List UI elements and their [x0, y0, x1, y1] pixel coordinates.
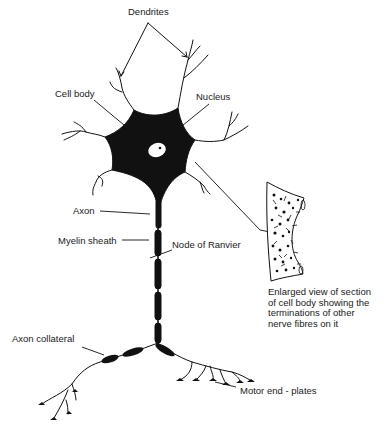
label-nucleus: Nucleus [196, 92, 230, 102]
motor-end-plates [38, 378, 255, 420]
dendrites-pointer [119, 23, 187, 76]
label-axon: Axon [73, 206, 95, 216]
inset-enlarged-view [267, 182, 305, 281]
dendrite-right [195, 112, 248, 142]
dendrite-lower-right [185, 172, 210, 194]
dendrite-left [62, 122, 105, 140]
neuron-diagram [0, 0, 387, 426]
axon [155, 200, 161, 345]
nucleus-pointer [177, 104, 209, 130]
label-myelin-sheath: Myelin sheath [58, 236, 117, 246]
motor-branch [158, 343, 250, 384]
inset-pointer [195, 162, 270, 232]
axon-pointer [100, 211, 150, 214]
inset-caption: Enlarged view of section of cell body sh… [268, 287, 371, 329]
cell-body [105, 108, 195, 205]
label-dendrites: Dendrites [128, 7, 169, 17]
label-node-of-ranvier: Node of Ranvier [172, 240, 241, 250]
axon-collateral-pointer [82, 347, 104, 355]
label-motor-end-plates: Motor end - plates [240, 386, 317, 396]
label-cell-body: Cell body [55, 89, 95, 99]
myelin-collateral [100, 341, 176, 365]
dendrite-lower-left [93, 170, 112, 195]
cell-body-pointer [94, 100, 124, 125]
axon-collateral-branch [42, 343, 158, 418]
label-axon-collateral: Axon collateral [12, 334, 74, 344]
